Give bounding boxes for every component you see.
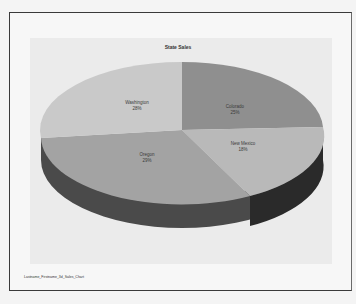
pie-chart: [0, 0, 356, 304]
label-colorado-pct: 25%: [210, 110, 260, 116]
label-washington: Washington 28%: [112, 100, 162, 112]
slice-colorado[interactable]: [182, 62, 323, 130]
label-colorado: Colorado 25%: [210, 104, 260, 116]
footer-filename: Lastname_Firstname_3d_Sales_Chart: [24, 275, 84, 279]
label-new-mexico-pct: 18%: [218, 147, 268, 153]
label-oregon: Oregon 29%: [122, 152, 172, 164]
label-washington-pct: 28%: [112, 106, 162, 112]
label-new-mexico: New Mexico 18%: [218, 141, 268, 153]
label-oregon-pct: 29%: [122, 158, 172, 164]
